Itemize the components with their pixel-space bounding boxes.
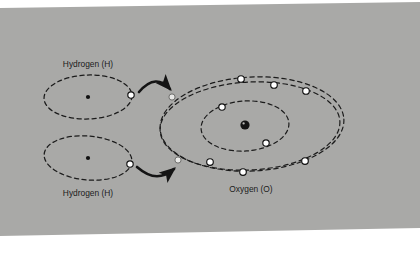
hydrogen-top-electron (128, 92, 134, 98)
shared-electron-top (169, 94, 175, 100)
hydrogen-bottom-electron (127, 161, 133, 167)
hydrogen-top-nucleus (86, 95, 90, 99)
oxygen-inner-electron (263, 140, 269, 146)
shared-electron-bottom (175, 157, 181, 163)
oxygen-outer-electron (240, 169, 247, 176)
bonding-diagram-svg: Hydrogen (H) Hydrogen (H) (0, 0, 420, 255)
oxygen-outer-electron (207, 159, 214, 166)
oxygen-nucleus-highlight (242, 122, 244, 124)
oxygen-inner-electron (219, 104, 225, 110)
figure-canvas: Hydrogen (H) Hydrogen (H) (0, 0, 420, 255)
oxygen-outer-electron (238, 76, 245, 83)
oxygen-nucleus (240, 120, 249, 129)
oxygen-outer-electron (303, 88, 310, 95)
oxygen-outer-electron (271, 82, 278, 89)
illustration-panel (0, 2, 420, 236)
oxygen-outer-electron (302, 158, 309, 165)
hydrogen-top-label: Hydrogen (H) (63, 59, 113, 69)
oxygen-label: Oxygen (O) (229, 184, 272, 194)
hydrogen-bottom-label: Hydrogen (H) (63, 188, 113, 198)
hydrogen-bottom-nucleus (86, 156, 90, 160)
